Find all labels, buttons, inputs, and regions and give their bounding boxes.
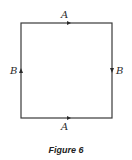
bottom-edge-label: A xyxy=(61,122,68,132)
right-edge-arrow-down-icon xyxy=(110,68,114,73)
top-edge-arrow-right-icon xyxy=(67,21,71,25)
square-loop-diagram xyxy=(0,0,132,160)
bottom-edge-arrow-right-icon xyxy=(67,116,71,120)
figure-caption: Figure 6 xyxy=(0,146,132,155)
figure-diagram: A B A B Figure 6 xyxy=(0,0,132,160)
left-edge-label: B xyxy=(10,66,17,76)
square-outline xyxy=(21,23,112,118)
right-edge-label: B xyxy=(116,66,123,76)
top-edge-label: A xyxy=(61,10,68,20)
left-edge-arrow-up-icon xyxy=(19,68,23,73)
